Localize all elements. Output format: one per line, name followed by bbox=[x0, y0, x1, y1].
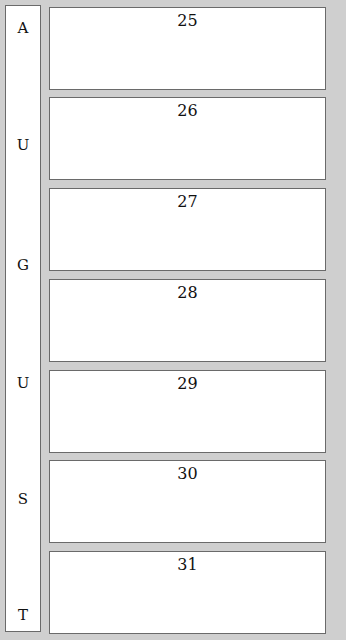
month-letter: S bbox=[6, 490, 40, 508]
day-number: 28 bbox=[50, 284, 325, 302]
day-cell-26[interactable]: 26 bbox=[49, 97, 326, 180]
month-letter: U bbox=[6, 136, 40, 154]
month-letter: A bbox=[6, 19, 40, 37]
day-cell-31[interactable]: 31 bbox=[49, 551, 326, 634]
day-cell-27[interactable]: 27 bbox=[49, 188, 326, 271]
month-letter: T bbox=[6, 606, 40, 624]
day-number: 30 bbox=[50, 465, 325, 483]
day-cell-25[interactable]: 25 bbox=[49, 7, 326, 90]
day-number: 31 bbox=[50, 556, 325, 574]
month-letter: G bbox=[6, 256, 40, 274]
month-letter: U bbox=[6, 374, 40, 392]
day-cell-29[interactable]: 29 bbox=[49, 370, 326, 453]
month-label-strip: A U G U S T bbox=[5, 5, 41, 632]
day-cell-28[interactable]: 28 bbox=[49, 279, 326, 362]
day-number: 25 bbox=[50, 12, 325, 30]
day-number: 29 bbox=[50, 375, 325, 393]
day-number: 27 bbox=[50, 193, 325, 211]
day-number: 26 bbox=[50, 102, 325, 120]
day-cell-30[interactable]: 30 bbox=[49, 460, 326, 543]
